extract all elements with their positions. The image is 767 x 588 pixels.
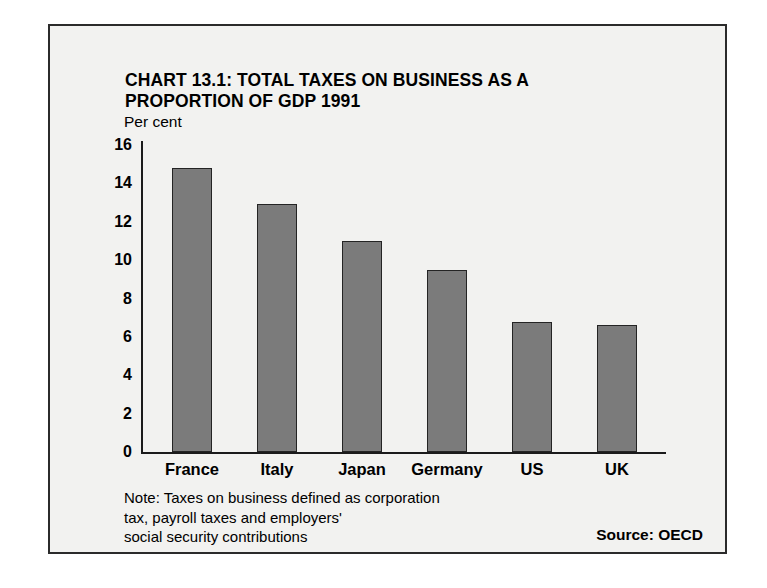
chart-note-line-2: tax, payroll taxes and employers' xyxy=(124,508,554,528)
bar xyxy=(597,325,637,452)
chart-source: Source: OECD xyxy=(596,526,703,544)
bar xyxy=(257,204,297,452)
chart-note-line-1: Note: Taxes on business defined as corpo… xyxy=(124,488,554,508)
y-axis-line xyxy=(141,141,143,454)
chart-note: Note: Taxes on business defined as corpo… xyxy=(124,488,554,547)
chart-panel: CHART 13.1: TOTAL TAXES ON BUSINESS AS A… xyxy=(48,24,727,554)
plot-area: 1614121086420 FranceItalyJapanGermanyUSU… xyxy=(50,26,729,556)
y-axis-tick-label: 12 xyxy=(92,214,132,230)
x-axis-category-label: UK xyxy=(557,460,677,479)
y-axis-tick-label: 4 xyxy=(92,367,132,383)
y-axis-tick-label: 10 xyxy=(92,252,132,268)
y-axis-tick-label: 14 xyxy=(92,175,132,191)
chart-note-line-3: social security contributions xyxy=(124,527,554,547)
y-axis-tick-label: 2 xyxy=(92,406,132,422)
bar xyxy=(342,241,382,452)
bar xyxy=(512,322,552,452)
screenshot-root: CHART 13.1: TOTAL TAXES ON BUSINESS AS A… xyxy=(0,0,767,588)
y-axis-tick-label: 8 xyxy=(92,291,132,307)
bar xyxy=(172,168,212,452)
y-axis-tick-label: 16 xyxy=(92,137,132,153)
bar xyxy=(427,270,467,452)
x-axis-line xyxy=(141,452,666,454)
y-axis-tick-label: 6 xyxy=(92,329,132,345)
y-axis-tick-label: 0 xyxy=(92,444,132,460)
